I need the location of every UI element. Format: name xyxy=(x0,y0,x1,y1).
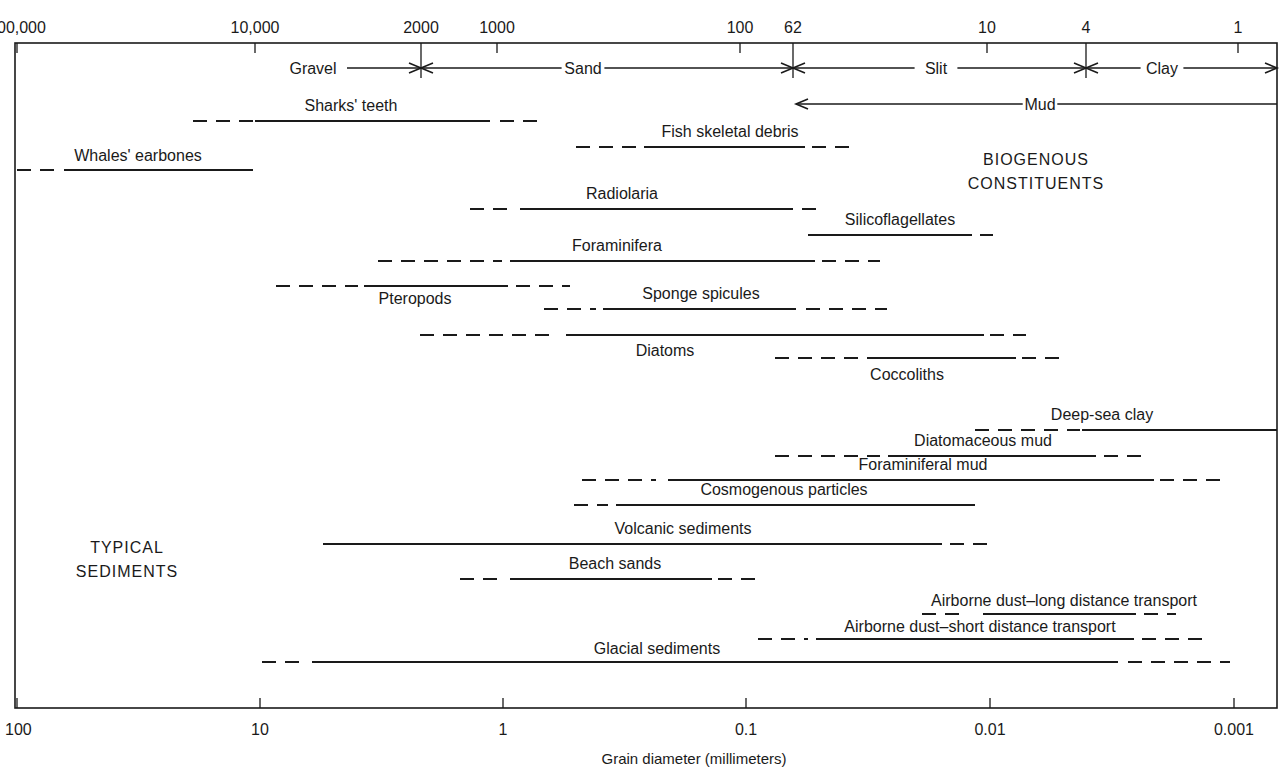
series-glacial-sediments: Glacial sediments xyxy=(262,640,1230,662)
series-label: Diatomaceous mud xyxy=(914,432,1052,449)
group-label: BIOGENOUS xyxy=(983,151,1089,168)
size-class-label: Clay xyxy=(1146,60,1178,77)
size-class-label: Gravel xyxy=(289,60,336,77)
series-coccoliths: Coccoliths xyxy=(775,358,1062,383)
size-class-label: Slit xyxy=(925,60,948,77)
size-class-arrows: GravelSandSlitClayMud xyxy=(289,60,1277,113)
series-label: Silicoflagellates xyxy=(845,211,955,228)
size-class-sand: Sand xyxy=(421,60,793,77)
series-label: Deep-sea clay xyxy=(1051,406,1153,423)
series-deep-sea-clay: Deep-sea clay xyxy=(975,406,1277,430)
size-class-mud: Mud xyxy=(796,96,1277,113)
series-sponge-spicules: Sponge spicules xyxy=(544,285,887,309)
top-tick-label: 4 xyxy=(1082,19,1091,36)
series-sharks-teeth: Sharks' teeth xyxy=(193,97,545,121)
series-airborne-dust-short-distance-transport: Airborne dust–short distance transport xyxy=(758,618,1208,639)
x-axis-label: Grain diameter (millimeters) xyxy=(601,750,786,767)
series-silicoflagellates: Silicoflagellates xyxy=(808,211,993,235)
series-label: Pteropods xyxy=(379,290,452,307)
series-beach-sands: Beach sands xyxy=(460,555,760,579)
top-tick-label: 1 xyxy=(1234,19,1243,36)
series-label: Sponge spicules xyxy=(642,285,759,302)
series-pteropods: Pteropods xyxy=(276,286,570,307)
series-label: Airborne dust–short distance transport xyxy=(844,618,1116,635)
series-label: Fish skeletal debris xyxy=(662,123,799,140)
series-foraminiferal-mud: Foraminiferal mud xyxy=(582,456,1226,480)
series-diatomaceous-mud: Diatomaceous mud xyxy=(775,432,1148,456)
group-label: SEDIMENTS xyxy=(76,563,178,580)
bottom-axis-millimeters: 1001010.10.010.001 xyxy=(5,698,1254,738)
size-class-clay: Clay xyxy=(1086,60,1277,77)
series-label: Beach sands xyxy=(569,555,662,572)
series-airborne-dust-long-distance-transport: Airborne dust–long distance transport xyxy=(922,592,1198,614)
series-label: Coccoliths xyxy=(870,366,944,383)
top-tick-label: 100 xyxy=(727,19,754,36)
series-label: Diatoms xyxy=(636,342,695,359)
grain-size-chart: 100,00010,00020001000100621041 1001010.1… xyxy=(0,0,1282,772)
series-label: Glacial sediments xyxy=(594,640,720,657)
top-tick-label: 2000 xyxy=(403,19,439,36)
size-class-label: Mud xyxy=(1024,96,1055,113)
bottom-tick-label: 0.1 xyxy=(735,721,757,738)
top-tick-label: 62 xyxy=(784,19,802,36)
series-label: Cosmogenous particles xyxy=(700,481,867,498)
group-label: CONSTITUENTS xyxy=(968,175,1104,192)
top-tick-label: 10,000 xyxy=(231,19,280,36)
series-radiolaria: Radiolaria xyxy=(470,185,822,209)
size-class-gravel: Gravel xyxy=(289,60,421,77)
series-fish-skeletal-debris: Fish skeletal debris xyxy=(576,123,853,147)
series-label: Airborne dust–long distance transport xyxy=(931,592,1197,609)
series-label: Foraminifera xyxy=(572,237,662,254)
series-cosmogenous-particles: Cosmogenous particles xyxy=(574,481,975,505)
top-tick-label: 10 xyxy=(978,19,996,36)
bottom-tick-label: 100 xyxy=(5,721,32,738)
size-class-label: Sand xyxy=(564,60,601,77)
series-whales-earbones: Whales' earbones xyxy=(17,147,253,170)
top-tick-label: 1000 xyxy=(479,19,515,36)
series-volcanic-sediments: Volcanic sediments xyxy=(323,520,990,544)
series-label: Sharks' teeth xyxy=(305,97,398,114)
bottom-tick-label: 10 xyxy=(251,721,269,738)
series-label: Radiolaria xyxy=(586,185,658,202)
top-tick-label: 100,000 xyxy=(0,19,46,36)
series-label: Whales' earbones xyxy=(74,147,202,164)
series-label: Foraminiferal mud xyxy=(859,456,988,473)
series-diatoms: Diatoms xyxy=(420,335,1026,359)
bottom-tick-label: 0.01 xyxy=(974,721,1005,738)
group-label: TYPICAL xyxy=(90,539,164,556)
series-label: Volcanic sediments xyxy=(615,520,752,537)
series-foraminifera: Foraminifera xyxy=(378,237,880,261)
bottom-tick-label: 0.001 xyxy=(1214,721,1254,738)
top-axis-micrometers: 100,00010,00020001000100621041 xyxy=(0,19,1243,78)
size-class-slit: Slit xyxy=(793,60,1086,77)
bottom-tick-label: 1 xyxy=(499,721,508,738)
